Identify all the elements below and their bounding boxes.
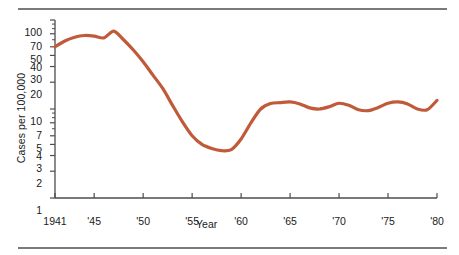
figure-page: Cases per 100,000 Year 10070504030201075…: [0, 0, 459, 255]
data-series-line: [55, 31, 437, 151]
top-divider-rule: [18, 8, 447, 10]
plot-area: [0, 12, 459, 244]
chart-figure: Cases per 100,000 Year 10070504030201075…: [0, 12, 459, 244]
axis-ticks-group: [50, 20, 437, 198]
axes-group: [55, 20, 437, 198]
bottom-divider-rule: [18, 247, 447, 249]
